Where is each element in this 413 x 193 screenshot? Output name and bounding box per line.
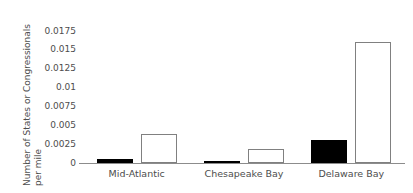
bar-chart: Number of States or Congressionals per m… — [0, 0, 413, 193]
y-axis-tick-label: 0.005 — [26, 121, 76, 130]
y-axis-zero-tick-mark — [79, 163, 83, 164]
y-axis-tick-label: 0.015 — [26, 45, 76, 54]
y-axis-tick-label: 0.0025 — [26, 140, 76, 149]
y-axis-tick-label: 0.0125 — [26, 64, 76, 73]
bar-states-2 — [311, 140, 347, 163]
y-axis-tick-label: 0.01 — [26, 83, 76, 92]
bar-congressionals-1 — [248, 149, 284, 163]
bar-states-0 — [97, 159, 133, 163]
plot-area — [83, 24, 405, 164]
y-axis-tick-labels: 00.00250.0050.00750.010.01250.0150.0175 — [26, 0, 76, 193]
y-axis-tick-label: 0.0175 — [26, 27, 76, 36]
x-axis-tick-label: Delaware Bay — [281, 168, 413, 179]
bar-states-1 — [204, 161, 240, 163]
x-axis-line — [83, 163, 405, 164]
bar-congressionals-2 — [355, 42, 391, 163]
y-axis-tick-label: 0.0075 — [26, 102, 76, 111]
x-axis-tick-labels: Mid-AtlanticChesapeake BayDelaware Bay — [83, 168, 405, 188]
y-axis-tick-label: 0 — [26, 159, 76, 168]
bar-congressionals-0 — [141, 134, 177, 163]
